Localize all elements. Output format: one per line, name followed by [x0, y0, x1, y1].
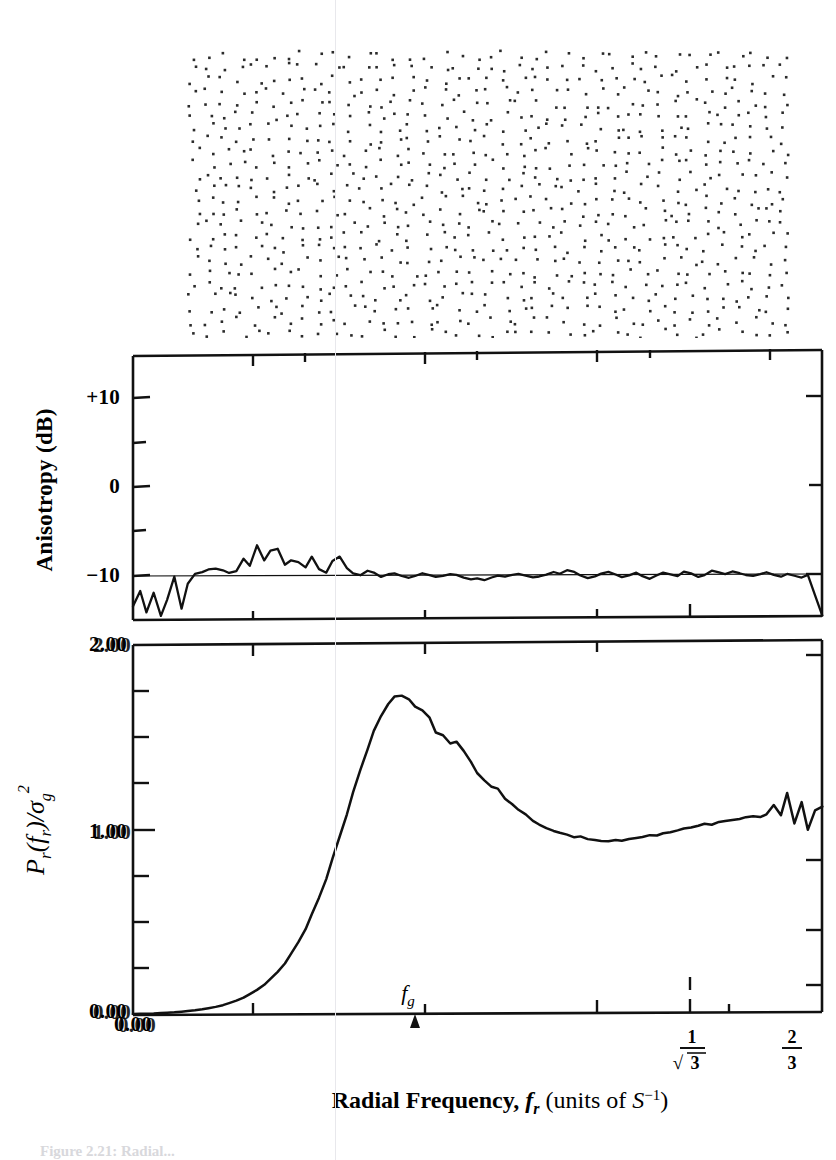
stipple-point	[530, 331, 533, 334]
stipple-point	[378, 147, 381, 150]
stipple-point	[235, 141, 238, 144]
stipple-point	[255, 196, 258, 199]
stipple-point	[748, 64, 751, 67]
stipple-point	[786, 331, 789, 334]
stipple-point	[627, 152, 630, 155]
stipple-point	[301, 239, 304, 242]
stipple-point	[360, 78, 363, 81]
stipple-point	[296, 113, 299, 116]
stipple-point	[582, 57, 585, 60]
stipple-point	[422, 152, 425, 155]
stipple-point	[531, 68, 534, 71]
stipple-point	[766, 127, 769, 130]
page-guide-line	[335, 0, 336, 1160]
stipple-point	[722, 306, 725, 309]
stipple-point	[346, 184, 349, 187]
stipple-point	[611, 67, 614, 70]
stipple-point	[685, 136, 688, 139]
stipple-point	[350, 334, 353, 337]
stipple-point	[302, 285, 305, 288]
stipple-point	[614, 151, 617, 154]
stipple-point	[786, 104, 789, 107]
stipple-point	[547, 331, 550, 334]
stipple-point	[316, 210, 319, 213]
stipple-point	[318, 112, 321, 115]
stipple-point	[208, 57, 211, 60]
stipple-point	[484, 293, 487, 296]
stipple-point	[532, 209, 535, 212]
stipple-point	[503, 70, 506, 73]
stipple-point	[578, 261, 581, 264]
anisotropy-ytick-zero: 0	[109, 474, 120, 498]
stipple-point	[723, 231, 726, 234]
stipple-point	[696, 66, 699, 69]
stipple-point	[266, 177, 269, 180]
stipple-point	[535, 58, 538, 61]
stipple-point	[704, 154, 707, 157]
stipple-point	[268, 138, 271, 141]
stipple-point	[766, 56, 769, 59]
stipple-point	[602, 52, 605, 55]
stipple-point	[737, 100, 740, 103]
stipple-point	[349, 81, 352, 84]
stipple-point	[378, 240, 381, 243]
stipple-point	[250, 187, 253, 190]
stipple-point	[762, 163, 765, 166]
stipple-point	[554, 260, 557, 263]
stipple-point	[724, 92, 727, 95]
stipple-point	[523, 299, 526, 302]
stipple-point	[749, 125, 752, 128]
stipple-point	[375, 66, 378, 69]
stipple-point	[282, 251, 285, 254]
stipple-point	[597, 214, 600, 217]
stipple-point	[442, 224, 445, 227]
stipple-point	[563, 257, 566, 260]
stipple-point	[631, 55, 634, 58]
stipple-point	[514, 198, 517, 201]
stipple-point	[476, 102, 479, 105]
stipple-point	[689, 171, 692, 174]
stipple-point	[199, 213, 202, 216]
stipple-point	[342, 231, 345, 234]
stipple-point	[785, 272, 788, 275]
stipple-point	[627, 136, 630, 139]
stipple-point	[705, 63, 708, 66]
stipple-point	[633, 322, 636, 325]
stipple-point	[677, 190, 680, 193]
stipple-point	[695, 337, 698, 340]
stipple-point	[445, 82, 448, 85]
stipple-point	[544, 147, 547, 150]
stipple-point	[502, 238, 505, 241]
stipple-point	[234, 111, 237, 114]
stipple-point	[316, 151, 319, 154]
stipple-point	[561, 297, 564, 300]
stipple-point	[561, 124, 564, 127]
stipple-point	[375, 52, 378, 55]
stipple-point	[468, 271, 471, 274]
stipple-point	[453, 162, 456, 165]
stipple-point	[343, 323, 346, 326]
stipple-point	[736, 162, 739, 165]
stipple-point	[514, 331, 517, 334]
stipple-point	[298, 50, 301, 53]
stipple-point	[706, 298, 709, 301]
stipple-point	[330, 226, 333, 229]
stipple-point	[224, 248, 227, 251]
stipple-point	[370, 52, 373, 55]
stipple-point	[301, 305, 304, 308]
stipple-point	[189, 273, 192, 276]
stipple-point	[586, 106, 589, 109]
stipple-point	[205, 68, 208, 71]
stipple-point	[360, 231, 363, 234]
stipple-point	[267, 258, 270, 261]
stipple-point	[755, 174, 758, 177]
stipple-point	[367, 225, 370, 228]
stipple-point	[344, 213, 347, 216]
stipple-point	[517, 222, 520, 225]
stipple-point	[238, 127, 241, 130]
stipple-point	[626, 162, 629, 165]
stipple-point	[484, 154, 487, 157]
stipple-point	[426, 233, 429, 236]
stipple-point	[723, 141, 726, 144]
stipple-point	[486, 102, 489, 105]
